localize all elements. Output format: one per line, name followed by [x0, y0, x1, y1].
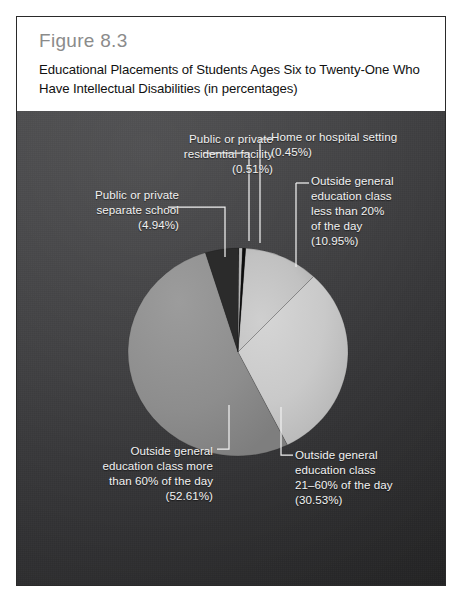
label-outside-general-education-more-than-60: Outside general education class more tha… [39, 443, 213, 503]
label-outside-general-education-21-to-60: Outside general education class 21–60% o… [295, 447, 441, 507]
label-home-or-hospital-setting: Home or hospital setting (0.45%) [271, 129, 439, 159]
figure-container: Figure 8.3 Educational Placements of Stu… [16, 16, 446, 586]
figure-header: Figure 8.3 Educational Placements of Stu… [17, 17, 445, 111]
figure-title: Educational Placements of Students Ages … [39, 61, 427, 98]
figure-number: Figure 8.3 [39, 31, 427, 52]
label-public-or-private-residential-facility: Public or private residential facility (… [113, 131, 273, 176]
pie-slice-group [128, 248, 348, 456]
label-public-or-private-separate-school: Public or private separate school (4.94%… [27, 187, 179, 232]
chart-canvas: Public or private residential facility (… [17, 111, 445, 586]
label-outside-general-education-less-than-20: Outside general education class less tha… [311, 173, 437, 248]
